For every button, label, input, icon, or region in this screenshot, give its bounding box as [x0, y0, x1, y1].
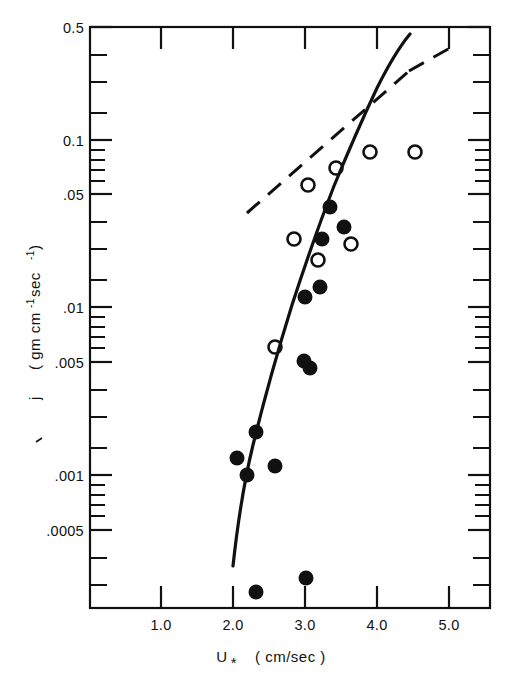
x-tick-label-4.0: 4.0 — [366, 617, 387, 633]
y-axis-symbol: j — [26, 396, 43, 401]
y-tick-label-0.5: 0.5 — [63, 20, 84, 36]
y-axis-units-sec: sec — [26, 272, 43, 297]
plot-frame — [90, 27, 490, 608]
data-point-open — [364, 146, 377, 159]
y-tick-label-.0005: .0005 — [46, 523, 84, 539]
x-axis-major-ticks — [161, 586, 449, 608]
data-point-filled — [298, 290, 313, 305]
data-point-filled — [299, 571, 314, 586]
chart-svg: 0.5 0.1 .05 .01 .005 .001 .0005 1.0 2.0 … — [0, 0, 516, 680]
y-axis-units-open: ( gm cm — [26, 312, 43, 370]
data-point-open — [302, 179, 315, 192]
dashed-line — [247, 71, 409, 213]
right-axis-ticks — [468, 27, 490, 530]
data-point-filled — [230, 451, 245, 466]
data-point-filled — [313, 280, 328, 295]
right-axis-minor-ticks — [473, 55, 490, 585]
data-point-filled — [323, 200, 338, 215]
data-point-filled — [240, 468, 255, 483]
y-axis-units-group: ( gm cm -1 sec -1 ) — [25, 245, 43, 371]
data-point-open — [288, 233, 301, 246]
data-point-filled — [268, 459, 283, 474]
x-axis-symbol: U — [216, 648, 227, 665]
plot-border — [90, 27, 490, 608]
data-point-filled — [249, 425, 264, 440]
y-tick-label-.005: .005 — [55, 355, 84, 371]
x-axis-title: U * ( cm/sec ) — [216, 648, 326, 671]
figure-container: 0.5 0.1 .05 .01 .005 .001 .0005 1.0 2.0 … — [0, 0, 516, 680]
x-axis-units: ( cm/sec ) — [255, 648, 326, 665]
open-data-points — [269, 146, 422, 354]
data-point-open — [312, 254, 325, 267]
stray-mark — [36, 438, 42, 442]
y-tick-label-0.1: 0.1 — [63, 133, 84, 149]
y-tick-label-.001: .001 — [55, 468, 84, 484]
data-point-filled — [337, 220, 352, 235]
filled-data-points — [230, 200, 352, 600]
x-axis-subscript: * — [231, 654, 237, 671]
y-axis-paren-close: ) — [26, 245, 43, 251]
data-point-open — [345, 238, 358, 251]
data-point-filled — [315, 232, 330, 247]
y-axis-title: j — [26, 396, 43, 401]
x-tick-label-5.0: 5.0 — [438, 617, 459, 633]
data-point-filled — [303, 361, 318, 376]
x-tick-label-2.0: 2.0 — [222, 617, 243, 633]
y-axis-major-ticks — [90, 27, 112, 530]
x-tick-label-3.0: 3.0 — [294, 617, 315, 633]
y-axis-minor-ticks — [90, 55, 107, 585]
solid-curve — [233, 34, 410, 566]
y-axis-exponent-2: -1 — [25, 250, 36, 260]
y-tick-label-.01: .01 — [63, 300, 84, 316]
data-point-open — [409, 146, 422, 159]
data-point-filled — [249, 585, 264, 600]
x-tick-label-1.0: 1.0 — [150, 617, 171, 633]
y-tick-label-.05: .05 — [63, 187, 84, 203]
y-axis-exponent-1: -1 — [25, 298, 36, 308]
